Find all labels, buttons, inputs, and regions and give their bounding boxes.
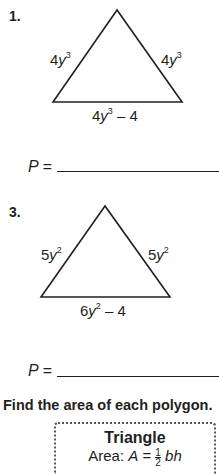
side-label-left: 5y2 (41, 245, 62, 263)
perimeter-label: P = (28, 158, 52, 176)
side-label-left: 4y3 (50, 50, 71, 68)
formula-box-title: Triangle (56, 429, 214, 447)
perimeter-label: P = (28, 362, 52, 380)
side-label-base: 4y3 – 4 (92, 106, 138, 124)
side-label-base: 6y2 – 4 (80, 301, 126, 319)
perimeter-answer-blank[interactable] (57, 376, 219, 377)
side-label-right: 4y3 (161, 50, 182, 68)
side-label-right: 5y2 (148, 245, 169, 263)
triangle-figure (0, 0, 219, 120)
area-formula: Area: A = 12 bh (56, 447, 214, 467)
perimeter-answer-blank[interactable] (57, 171, 219, 172)
triangle-figure (0, 200, 219, 310)
section-heading: Find the area of each polygon. (3, 397, 212, 413)
formula-box: Triangle Area: A = 12 bh (54, 422, 216, 474)
